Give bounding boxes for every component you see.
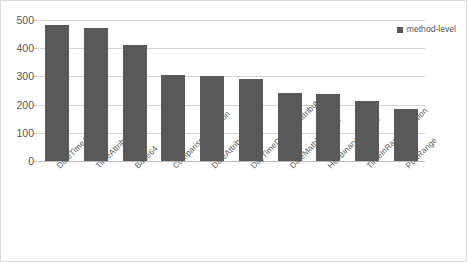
bar — [45, 25, 69, 161]
y-tick-label-300: 300 — [1, 71, 34, 81]
bar-chart: method-level 5004003002001000 DateTimeAt… — [0, 0, 467, 262]
bar — [239, 79, 263, 161]
plot-area — [38, 20, 425, 161]
y-tick-mark-100 — [34, 133, 37, 134]
y-tick-label-500: 500 — [1, 15, 34, 25]
y-tick-mark-500 — [34, 20, 37, 21]
y-axis: 5004003002001000 — [1, 20, 34, 161]
y-tick-mark-200 — [34, 105, 37, 106]
bar — [161, 75, 185, 161]
bar-slot — [38, 20, 77, 161]
x-axis: DateTimeAttributeTimeAttributeBase64Comp… — [38, 161, 425, 261]
y-tick-label-100: 100 — [1, 128, 34, 138]
y-tick-mark-0 — [34, 161, 37, 162]
bar-series-method-level — [38, 20, 425, 161]
y-tick-mark-400 — [34, 48, 37, 49]
y-tick-mark-300 — [34, 76, 37, 77]
y-tick-label-400: 400 — [1, 43, 34, 53]
y-tick-label-200: 200 — [1, 100, 34, 110]
bar-slot — [154, 20, 193, 161]
y-tick-label-0: 0 — [1, 156, 34, 166]
